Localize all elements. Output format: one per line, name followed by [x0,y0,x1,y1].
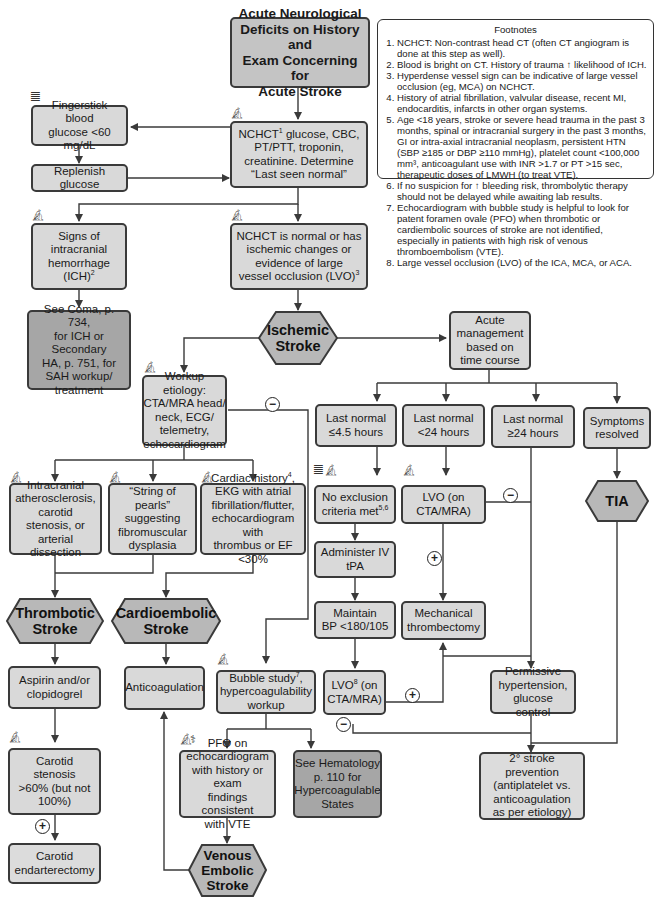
negative-sign: − [265,397,280,412]
footnote-3: Hyperdense vessel sign can be indicative… [397,70,647,92]
node-text: Carotid stenosis [14,755,95,782]
node-text: Cardiac history4, [204,472,302,486]
node-text: Permissive [496,665,570,679]
node-replenish-glucose: Replenish glucose [31,164,128,192]
node-text: Bubble study7, [220,672,312,686]
node-text: management [456,327,523,341]
node-text: arterial dissection [15,533,96,560]
node-cardiac-history: Cardiac history4, EKG with atrial fibril… [200,483,306,555]
node-text: Acute Stroke [236,84,364,100]
node-text: Anticoagulation [125,681,204,695]
node-text: (ICH) [63,270,90,282]
node-text: tPA [321,560,389,574]
node-text: No exclusion [322,491,389,505]
microscope-icon: 🔬︎ [402,465,416,476]
node-text: based on [456,341,523,355]
footnote-ref: 3 [355,269,359,276]
node-bubble-study: Bubble study7, hypercoagulability workup [216,670,316,714]
node-text: Stroke [15,621,95,637]
node-text: glucose <60 mg/dL [37,126,122,153]
positive-sign: + [405,688,420,703]
node-see-coma-reference: See Coma, p. 734, for ICH or Secondary H… [27,310,131,390]
footnote-ref: 5,6 [379,504,389,511]
node-text: States [294,798,380,812]
node-text: See Hematology [294,757,380,771]
node-text: time course [456,354,523,368]
node-text: 100%) [14,795,95,809]
node-text: thrombectomy [407,621,480,635]
node-text: PT/PTT, troponin, [239,141,360,155]
node-text: neck, ECG/ [143,411,225,425]
node-cardioembolic-stroke: Cardioembolic Stroke [111,598,221,644]
test-tube-icon: 𝄚 [314,465,323,476]
node-symptoms-resolved: Symptoms resolved [583,407,651,449]
node-pfo-echocardiogram: PFO on echocardiogram with history or ex… [179,750,276,818]
microscope-icon: 🔬︎ [230,108,244,119]
node-text: criteria met [322,505,379,517]
node-text: PFO on [185,737,270,751]
node-text: with VTE [185,818,270,832]
positive-sign: + [35,819,50,834]
node-text: ≥24 hours [503,427,563,441]
footnote-7: Echocardiogram with bubble study is help… [397,202,647,257]
node-text: Cardiac history [211,472,288,484]
node-lvo-reassess: LVO8 (on CTA/MRA) [323,670,386,715]
node-text: glucose control [496,692,570,719]
node-text: endarterectomy [15,864,95,878]
footnote-ref: 2 [91,269,95,276]
microscope-icon: 🔬︎ [324,465,338,476]
node-text: Acute [456,314,523,328]
node-text: Ischemic [267,322,329,338]
node-text: glucose, CBC, [286,128,360,140]
node-text: Venous [201,848,254,863]
node-text: NCHCT is normal or has [236,230,361,244]
footnote-5: Age <18 years, stroke or severe head tra… [397,114,647,180]
node-text: Stroke [116,621,217,637]
microscope-icon: 🔬︎ [108,472,122,483]
node-text: p. 110 for [294,771,380,785]
node-see-hematology-reference: See Hematology p. 110 for Hypercoagulabl… [293,750,382,818]
node-text: Carotid [15,850,95,864]
node-intracranial-atherosclerosis: Intracranial atherosclerosis, carotid st… [9,483,102,555]
node-text: Symptoms [590,415,644,429]
node-text: echocardiogram [143,438,225,452]
node-text: creatinine. Determine [239,155,360,169]
footnote-4: History of atrial fibrillation, valvular… [397,92,647,114]
node-anticoagulation: Anticoagulation [124,666,205,710]
node-text: hypercoagulability [220,685,312,699]
microscope-icon: 🔬︎ [216,654,230,665]
node-mechanical-thrombectomy: Mechanical thrombectomy [401,601,486,640]
node-text: telemetry, [143,424,225,438]
node-text: Stroke [267,338,329,354]
node-text: ≤4.5 hours [326,426,386,440]
node-text: (on [358,679,378,691]
node-text: Last normal [413,412,473,426]
node-thrombotic-stroke: Thrombotic Stroke [6,598,104,644]
node-text: findings consistent [185,791,270,818]
node-text: Exam Concerning for [236,53,364,84]
node-secondary-prevention: 2° stroke prevention (antiplatelet vs. a… [479,752,585,820]
node-text: echocardiogram [185,750,270,764]
node-text: LVO8 (on [327,679,382,693]
node-nchct-normal: NCHCT is normal or has ischemic changes … [230,223,368,290]
node-text: LVO [332,679,354,691]
node-text: vessel occlusion (LVO)3 [236,270,361,284]
node-aspirin-clopidogrel: Aspirin and/or clopidogrel [8,666,101,709]
node-string-of-pearls: “String of pearls” suggesting fibromuscu… [108,483,197,555]
footnote-8: Large vessel occlusion (LVO) of the ICA,… [397,257,647,268]
node-text: Administer IV [321,546,389,560]
node-text: Signs of [48,230,110,244]
node-text: hypertension, [496,679,570,693]
footnote-ref: 1 [279,127,283,134]
node-text: Workup etiology: [143,370,225,397]
node-text: Embolic [201,863,254,878]
node-acute-neurological-deficits: Acute Neurological Deficits on History a… [230,17,370,88]
node-text: dysplasia [114,539,191,553]
node-text: Mechanical [407,607,480,621]
node-text: SAH workup/ [33,370,125,384]
node-text: carotid stenosis, or [15,506,96,533]
node-text: CTA/MRA head/ [143,397,225,411]
node-text: , [292,472,295,484]
node-text: echocardiogram with [204,512,302,539]
positive-sign: + [427,551,442,566]
